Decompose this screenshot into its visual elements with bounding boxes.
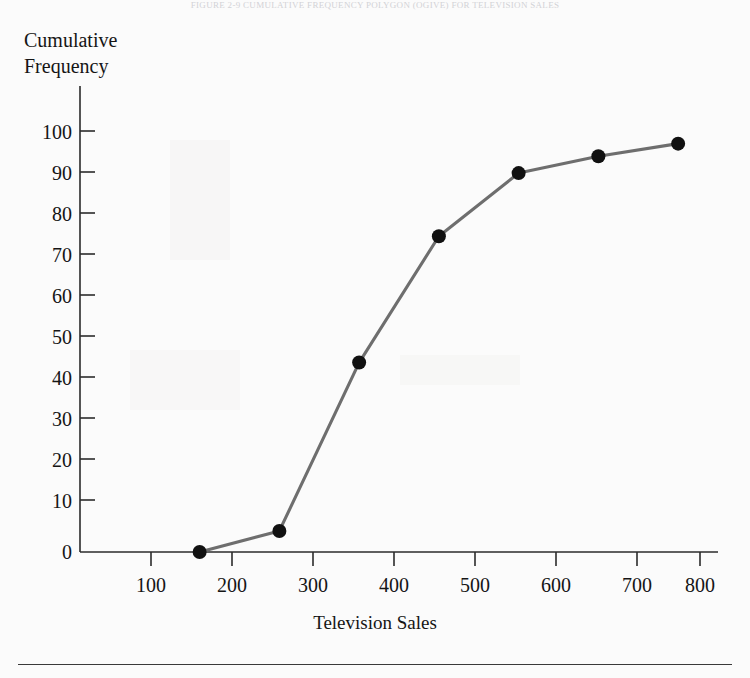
- x-tick-label: 500: [460, 574, 490, 596]
- page-footer-rule: [18, 664, 732, 665]
- data-point: [352, 356, 366, 370]
- x-axis-ticks: [151, 552, 700, 566]
- y-tick-label: 40: [52, 367, 72, 389]
- y-tick-label: 90: [52, 162, 72, 184]
- y-tick-label: 60: [52, 285, 72, 307]
- data-point: [272, 524, 286, 538]
- data-point-group: [193, 137, 686, 559]
- plot-area: 100 90 80 70 60 50 40 30 20 10 0: [0, 0, 750, 660]
- y-tick-label: 30: [52, 408, 72, 430]
- page-canvas: FIGURE 2-9 CUMULATIVE FREQUENCY POLYGON …: [0, 0, 750, 678]
- x-axis-title: Television Sales: [0, 612, 750, 634]
- y-tick-label: 10: [52, 490, 72, 512]
- x-tick-label: 600: [541, 574, 571, 596]
- cumulative-frequency-chart: Cumulative Frequency 100 90: [0, 0, 750, 660]
- data-point: [671, 137, 685, 151]
- x-tick-label: 700: [622, 574, 652, 596]
- x-tick-label: 100: [136, 574, 166, 596]
- cumulative-frequency-line: [200, 144, 679, 552]
- data-point: [591, 149, 605, 163]
- x-tick-label: 300: [298, 574, 328, 596]
- data-point: [432, 229, 446, 243]
- y-tick-label: 50: [52, 326, 72, 348]
- y-tick-label: 20: [52, 449, 72, 471]
- data-point: [193, 545, 207, 559]
- y-tick-label: 70: [52, 244, 72, 266]
- y-axis-ticks: [80, 131, 95, 500]
- x-tick-label: 200: [217, 574, 247, 596]
- x-tick-label: 400: [379, 574, 409, 596]
- data-point: [512, 166, 526, 180]
- y-tick-label: 0: [62, 541, 72, 563]
- y-tick-label: 100: [42, 121, 72, 143]
- y-tick-label: 80: [52, 203, 72, 225]
- x-tick-label: 800: [685, 574, 715, 596]
